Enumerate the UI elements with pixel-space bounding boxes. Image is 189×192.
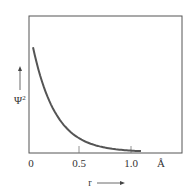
y-arrowhead-icon (18, 66, 22, 71)
psi-squared-curve (33, 47, 141, 151)
x-axis-label: r (88, 177, 92, 188)
tick-label-0-5: 0.5 (72, 157, 86, 169)
plot-frame (29, 16, 182, 153)
unit-label: Å (157, 157, 165, 169)
y-axis-label: Ψ2 (14, 94, 26, 106)
tick-label-1-0: 1.0 (124, 157, 138, 169)
x-arrowhead-icon (120, 181, 125, 185)
tick-label-0: 0 (28, 157, 34, 169)
chart: 0 0.5 1.0 Å r Ψ2 (0, 0, 189, 192)
